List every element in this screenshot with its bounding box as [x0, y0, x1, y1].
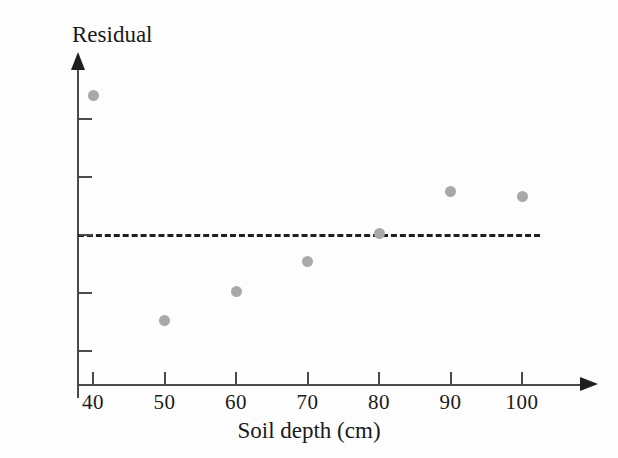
data-point: [302, 256, 313, 267]
x-tick-mark: [164, 372, 166, 385]
residual-plot: Residual Soil depth (cm) 1050−5−10 40506…: [0, 0, 618, 458]
x-tick-mark: [450, 372, 452, 385]
data-point: [445, 186, 456, 197]
y-axis-arrow-icon: [71, 52, 85, 70]
x-tick-mark: [307, 372, 309, 385]
x-tick-mark: [378, 372, 380, 385]
y-tick-mark: [79, 234, 92, 236]
x-tick-label: 50: [130, 390, 200, 414]
x-tick-label: 70: [273, 390, 343, 414]
x-axis-arrow-icon: [580, 377, 598, 391]
data-point: [88, 90, 99, 101]
data-point: [374, 228, 385, 239]
x-tick-label: 60: [201, 390, 271, 414]
x-tick-mark: [235, 372, 237, 385]
data-point: [517, 191, 528, 202]
y-axis-title: Residual: [72, 22, 153, 48]
x-axis-title: Soil depth (cm): [0, 418, 618, 444]
y-tick-mark: [79, 118, 92, 120]
y-tick-mark: [79, 292, 92, 294]
x-tick-label: 100: [487, 390, 557, 414]
x-tick-label: 40: [58, 390, 128, 414]
x-tick-mark: [521, 372, 523, 385]
x-tick-mark: [92, 372, 94, 385]
data-point: [159, 315, 170, 326]
y-tick-mark: [79, 176, 92, 178]
x-tick-label: 90: [416, 390, 486, 414]
zero-reference-line: [78, 234, 540, 237]
data-point: [231, 286, 242, 297]
x-axis-line: [78, 384, 588, 386]
x-tick-label: 80: [344, 390, 414, 414]
y-tick-mark: [79, 350, 92, 352]
